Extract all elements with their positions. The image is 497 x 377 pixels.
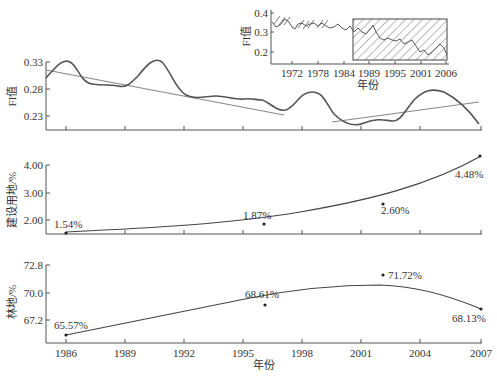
cl-ytick: 3.00	[24, 187, 44, 199]
figure: 0.33 0.28 0.23 FI值 0.4 0.3 0.2 FI值 1972 …	[0, 0, 497, 377]
fl-ytick: 67.2	[24, 314, 43, 326]
fl-ytick: 70.0	[24, 287, 44, 299]
inset-ytick: 0.2	[254, 46, 268, 58]
fl-annotation: 71.72%	[388, 269, 422, 281]
cl-ytick: 4.00	[24, 159, 44, 171]
fl-ytick: 72.8	[24, 259, 44, 271]
x-tick: 1995	[232, 347, 255, 359]
inset-ylabel: FI值	[240, 26, 252, 47]
x-tick: 1992	[173, 347, 195, 359]
fi-ylabel: FI值	[6, 86, 18, 107]
inset-xtick: 1995	[384, 67, 407, 79]
x-tick: 1989	[114, 347, 137, 359]
cl-annotation: 1.87%	[243, 209, 271, 221]
x-axis-label: 年份	[253, 358, 275, 371]
inset-ytick: 0.3	[254, 26, 268, 38]
x-tick: 2004	[409, 347, 432, 359]
forest-land-panel: 72.8 70.0 67.2 林地/% 65.57% 68.61% 71.72%…	[5, 259, 493, 371]
construction-land-panel: 4.00 3.00 2.00 建设用地/% 1.54% 1.87% 2.60% …	[5, 154, 483, 234]
inset-xlabel: 年份	[357, 78, 379, 91]
fi-ytick: 0.23	[24, 110, 44, 122]
inset-xtick: 2006	[435, 67, 458, 79]
inset-xtick: 2001	[410, 67, 432, 79]
cl-ytick: 2.00	[24, 214, 44, 226]
fi-ytick: 0.33	[24, 56, 44, 68]
cl-annotation: 1.54%	[54, 218, 82, 230]
x-tick: 2001	[350, 347, 372, 359]
cl-annotation: 2.60%	[381, 204, 409, 216]
fl-ylabel: 林地/%	[5, 285, 18, 319]
cl-fit-curve	[66, 156, 481, 232]
fi-inset: 0.4 0.3 0.2 FI值 1972 1978 1984 1989 1995…	[240, 7, 458, 91]
x-tick: 1986	[55, 347, 78, 359]
cl-annotation: 4.48%	[455, 168, 483, 180]
inset-xtick: 1978	[307, 67, 330, 79]
inset-ytick: 0.4	[254, 7, 268, 19]
fl-annotation: 68.61%	[245, 288, 279, 300]
x-tick: 2007	[470, 347, 493, 359]
inset-xtick: 1989	[358, 67, 381, 79]
x-tick: 1998	[291, 347, 314, 359]
inset-xtick: 1984	[333, 67, 356, 79]
fi-ytick: 0.28	[24, 83, 44, 95]
fl-annotation: 68.13%	[452, 312, 486, 324]
fl-annotation: 65.57%	[54, 319, 88, 331]
inset-xtick: 1972	[281, 67, 303, 79]
cl-ylabel: 建设用地/%	[5, 172, 18, 228]
